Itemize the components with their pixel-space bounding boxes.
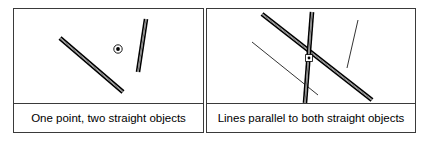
panel-left-drawing-area (14, 9, 203, 104)
panel-right-caption-bar: Lines parallel to both straight objects (207, 103, 415, 132)
panel-left-caption-bar: One point, two straight objects (14, 103, 203, 132)
intersection-point-marker-icon (306, 55, 313, 62)
panel-right-scene (207, 9, 415, 104)
panel-left-scene (14, 9, 203, 104)
figure-container: One point, two straight objects (0, 0, 429, 145)
straight-object-diagonal (262, 14, 372, 100)
panel-right-drawing-area (207, 9, 415, 104)
point-marker-icon (114, 45, 122, 53)
panel-right-caption-text: Lines parallel to both straight objects (218, 112, 405, 125)
panel-one-point-two-objects: One point, two straight objects (13, 8, 204, 133)
panel-left-caption-text: One point, two straight objects (31, 112, 186, 125)
straight-object-diagonal (60, 38, 123, 92)
panel-lines-parallel-to-objects: Lines parallel to both straight objects (206, 8, 416, 133)
straight-object-steep (138, 19, 146, 72)
parallel-line-steep (347, 20, 358, 68)
